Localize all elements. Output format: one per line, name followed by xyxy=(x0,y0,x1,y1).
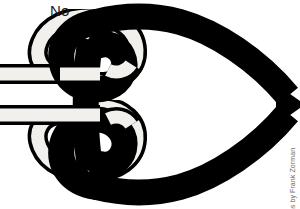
knot-illustration-figure: No Knot Illustrations by Frank Zorman xyxy=(0,0,300,209)
verdict-label-no: No xyxy=(50,2,70,19)
knot-diagram-svg xyxy=(0,0,300,209)
credit-container: Knot Illustrations by Frank Zorman xyxy=(286,47,300,207)
credit-text: Knot Illustrations by Frank Zorman xyxy=(289,148,297,209)
light-rope-lower-tail xyxy=(0,105,66,125)
